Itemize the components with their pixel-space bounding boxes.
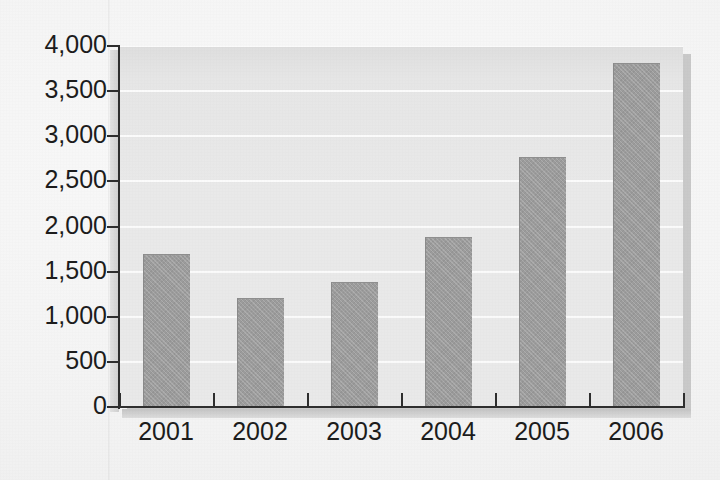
y-axis-tick xyxy=(107,45,119,47)
bar-2006 xyxy=(613,63,660,407)
x-axis-tick-label: 2001 xyxy=(118,417,214,446)
y-axis-tick xyxy=(107,271,119,273)
y-axis-tick-label: 0 xyxy=(11,391,107,420)
y-axis-tick-label: 2,000 xyxy=(11,211,107,240)
x-axis-tick-label: 2004 xyxy=(400,417,496,446)
bar-chart: 05001,0001,5002,0002,5003,0003,5004,000 … xyxy=(0,0,720,480)
plot-area xyxy=(119,46,683,407)
x-axis-tick xyxy=(401,393,403,407)
x-axis-tick xyxy=(307,393,309,407)
gridline xyxy=(119,361,683,363)
y-axis-tick-label: 2,500 xyxy=(11,165,107,194)
bar-2002 xyxy=(237,298,284,407)
y-axis-tick xyxy=(107,90,119,92)
y-axis-tick-label: 3,000 xyxy=(11,120,107,149)
bar-2005 xyxy=(519,157,566,407)
x-axis-tick-label: 2005 xyxy=(494,417,590,446)
bar-2003 xyxy=(331,282,378,407)
x-axis-tick xyxy=(683,393,685,407)
y-axis-tick-label: 1,000 xyxy=(11,301,107,330)
x-axis-tick-label: 2003 xyxy=(306,417,402,446)
x-axis-tick-label: 2002 xyxy=(212,417,308,446)
y-axis-tick-label: 1,500 xyxy=(11,256,107,285)
x-axis-tick-label: 2006 xyxy=(588,417,684,446)
y-axis-tick xyxy=(107,406,119,408)
bar-2004 xyxy=(425,237,472,407)
y-axis-tick xyxy=(107,226,119,228)
gridline xyxy=(119,90,683,92)
y-axis-tick xyxy=(107,361,119,363)
y-axis-tick xyxy=(107,135,119,137)
gridline xyxy=(119,271,683,273)
y-axis-tick xyxy=(107,316,119,318)
gridline xyxy=(119,316,683,318)
bar-2001 xyxy=(143,254,190,407)
scanned-page: 05001,0001,5002,0002,5003,0003,5004,000 … xyxy=(0,0,720,480)
y-axis-tick xyxy=(107,180,119,182)
x-axis-tick xyxy=(495,393,497,407)
gridline xyxy=(119,46,683,47)
gridline xyxy=(119,226,683,228)
y-axis-tick-label: 3,500 xyxy=(11,75,107,104)
y-axis-tick-label: 4,000 xyxy=(11,30,107,59)
x-axis-tick xyxy=(589,393,591,407)
x-axis-tick xyxy=(213,393,215,407)
y-axis-tick-label: 500 xyxy=(11,346,107,375)
x-axis-tick xyxy=(119,393,121,407)
gridline xyxy=(119,135,683,137)
gridline xyxy=(119,180,683,182)
